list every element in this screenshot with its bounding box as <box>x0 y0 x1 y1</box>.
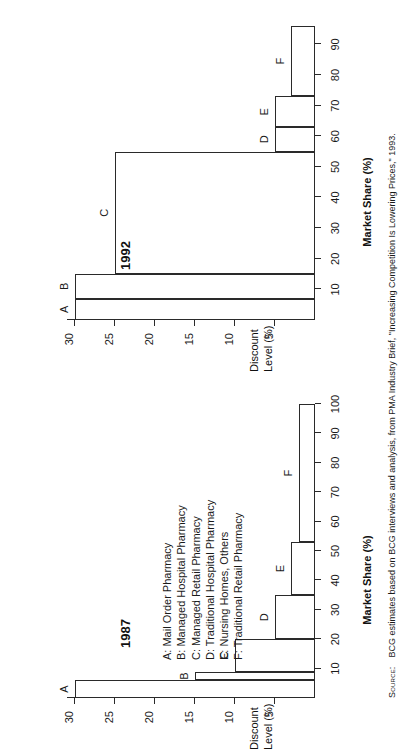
segment-label-b: B <box>58 283 70 290</box>
x-axis-title-1987: Market Share (%) <box>361 535 373 624</box>
segment-label-a: A <box>58 686 70 693</box>
y-tick-label-20: 20 <box>143 711 155 723</box>
x-tick-60 <box>315 521 321 522</box>
y-tick-5 <box>274 320 275 326</box>
source-text: BCG estimates based on BCG interviews an… <box>387 133 397 657</box>
y-axis-title-line1-1992: Discount <box>248 329 260 372</box>
x-tick-label-50: 50 <box>329 545 341 557</box>
x-tick-70 <box>315 491 321 492</box>
x-tick-label-60: 60 <box>329 130 341 142</box>
x-tick-label-10: 10 <box>329 662 341 674</box>
x-tick-90 <box>315 43 321 44</box>
segment-a <box>75 299 315 320</box>
segment-d <box>275 595 315 639</box>
x-tick-label-80: 80 <box>329 457 341 469</box>
x-tick-label-90: 90 <box>329 38 341 50</box>
x-axis-title-1992: Market Share (%) <box>361 157 373 246</box>
y-tick-label-15: 15 <box>183 711 195 723</box>
legend: A: Mail Order PharmacyB: Managed Hospita… <box>160 500 246 660</box>
segment-label-e: E <box>258 108 270 115</box>
segment-b <box>195 672 315 681</box>
x-tick-90 <box>315 432 321 433</box>
segment-label-e: E <box>274 565 286 572</box>
x-tick-label-30: 30 <box>329 222 341 234</box>
x-tick-10 <box>315 668 321 669</box>
segment-d <box>275 127 315 152</box>
y-tick-10 <box>234 320 235 326</box>
x-tick-80 <box>315 462 321 463</box>
segment-f <box>291 26 315 96</box>
x-tick-label-20: 20 <box>329 253 341 265</box>
x-tick-label-30: 30 <box>329 604 341 616</box>
y-tick-label-5: 5 <box>263 711 275 717</box>
segment-c <box>235 639 315 671</box>
segment-label-f: F <box>282 470 294 477</box>
x-tick-label-20: 20 <box>329 633 341 645</box>
x-tick-30 <box>315 227 321 228</box>
x-tick-70 <box>315 105 321 106</box>
rotated-figure-canvas: 1987 Discount Level (%) Market Share (%)… <box>0 0 407 756</box>
y-tick-25 <box>114 320 115 326</box>
x-tick-label-90: 90 <box>329 427 341 439</box>
legend-item-c: C: Managed Retail Pharmacy <box>189 500 203 660</box>
y-tick-label-5: 5 <box>263 333 275 339</box>
x-tick-label-40: 40 <box>329 574 341 586</box>
x-tick-80 <box>315 74 321 75</box>
x-tick-label-50: 50 <box>329 161 341 173</box>
x-tick-label-40: 40 <box>329 191 341 203</box>
y-tick-15 <box>194 698 195 704</box>
y-tick-5 <box>274 698 275 704</box>
y-tick-label-10: 10 <box>223 711 235 723</box>
segment-label-b: B <box>178 672 190 679</box>
segment-label-d: D <box>258 135 270 143</box>
source-note: Source:BCG estimates based on BCG interv… <box>387 8 397 698</box>
y-axis-title-line1: Discount <box>248 707 260 750</box>
x-tick-100 <box>315 403 321 404</box>
segment-label-a: A <box>58 306 70 313</box>
x-tick-label-10: 10 <box>329 283 341 295</box>
y-tick-30 <box>74 320 75 326</box>
legend-item-b: B: Managed Hospital Pharmacy <box>174 500 188 660</box>
y-tick-label-25: 25 <box>103 711 115 723</box>
y-tick-label-30: 30 <box>63 711 75 723</box>
legend-item-d: D: Traditional Hospital Pharmacy <box>203 500 217 660</box>
x-tick-10 <box>315 288 321 289</box>
segment-f <box>299 404 315 542</box>
source-label: Source: <box>387 666 397 698</box>
segment-c <box>115 152 315 275</box>
segment-e <box>291 542 315 595</box>
segment-label-c: C <box>98 209 110 217</box>
segment-label-f: F <box>274 58 286 65</box>
segment-e <box>275 96 315 127</box>
legend-item-a: A: Mail Order Pharmacy <box>160 500 174 660</box>
y-tick-10 <box>234 698 235 704</box>
segment-a <box>75 680 315 698</box>
y-tick-30 <box>74 698 75 704</box>
plot-area-1992: 102030405060708090 30252015105 ABCDEF <box>67 26 315 320</box>
x-tick-60 <box>315 135 321 136</box>
x-tick-30 <box>315 609 321 610</box>
legend-item-e: E: Nursing Homes, Others <box>217 500 231 660</box>
legend-item-f: F: Traditional Retail Pharmacy <box>231 500 245 660</box>
chart-panel-1987: 1987 Discount Level (%) Market Share (%)… <box>0 378 407 756</box>
x-tick-50 <box>315 550 321 551</box>
y-tick-20 <box>154 698 155 704</box>
x-tick-20 <box>315 258 321 259</box>
x-tick-50 <box>315 166 321 167</box>
x-tick-40 <box>315 197 321 198</box>
y-tick-25 <box>114 698 115 704</box>
x-tick-40 <box>315 579 321 580</box>
x-tick-label-60: 60 <box>329 515 341 527</box>
x-tick-label-100: 100 <box>329 395 341 413</box>
x-tick-20 <box>315 638 321 639</box>
y-tick-label-25: 25 <box>103 333 115 345</box>
y-tick-15 <box>194 320 195 326</box>
x-tick-label-70: 70 <box>329 100 341 112</box>
segment-b <box>75 274 315 299</box>
x-tick-label-70: 70 <box>329 486 341 498</box>
y-tick-label-20: 20 <box>143 333 155 345</box>
segment-label-d: D <box>258 613 270 621</box>
chart-panel-1992: 1992 Discount Level (%) Market Share (%)… <box>0 0 407 378</box>
y-tick-20 <box>154 320 155 326</box>
y-tick-label-10: 10 <box>223 333 235 345</box>
